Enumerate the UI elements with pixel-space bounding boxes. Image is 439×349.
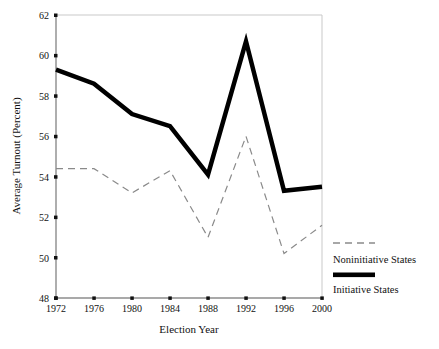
y-axis-title: Average Turnout (Percent): [10, 97, 23, 214]
legend-solid-line-swatch-icon: [333, 273, 375, 278]
line-chart-canvas: 62 60 58 56 54 52 50 48 1972 1976 1980 1…: [0, 0, 439, 349]
x-tick-label: 1976: [84, 303, 104, 314]
x-tick-mark: [244, 296, 248, 300]
plot-frame: [56, 15, 322, 298]
chart-figure: 62 60 58 56 54 52 50 48 1972 1976 1980 1…: [0, 0, 439, 349]
y-tick-label: 60: [39, 50, 49, 61]
x-tick-label: 1984: [160, 303, 180, 314]
y-tick-mark: [54, 54, 58, 58]
x-tick-mark: [206, 296, 210, 300]
y-tick-label: 58: [39, 91, 49, 102]
x-tick-label: 1992: [236, 303, 256, 314]
legend-label-noninitiative-states: Noninitiative States: [333, 254, 416, 265]
series-initiative-states: [56, 41, 322, 191]
y-tick-label: 54: [39, 172, 49, 183]
y-tick-label: 50: [39, 253, 49, 264]
y-tick-label: 62: [39, 10, 49, 21]
x-tick-mark: [320, 296, 324, 300]
initiative-states-line: [56, 41, 322, 191]
x-tick-mark: [168, 296, 172, 300]
x-tick-mark: [282, 296, 286, 300]
x-tick-mark: [130, 296, 134, 300]
x-tick-label: 2000: [312, 303, 332, 314]
x-tick-label: 1980: [122, 303, 142, 314]
x-tick-mark: [54, 296, 58, 300]
y-tick-mark: [54, 94, 58, 98]
y-tick-label: 52: [39, 212, 49, 223]
x-axis-title: Election Year: [159, 323, 219, 335]
y-tick-mark: [54, 175, 58, 179]
y-axis-tick-labels: 62 60 58 56 54 52 50 48: [39, 10, 49, 304]
y-tick-mark: [54, 216, 58, 220]
y-tick-mark: [54, 14, 58, 18]
legend-label-initiative-states: Initiative States: [333, 284, 399, 295]
y-tick-mark: [54, 256, 58, 260]
chart-legend: Noninitiative States Initiative States: [333, 243, 416, 295]
x-tick-label: 1988: [198, 303, 218, 314]
x-tick-label: 1996: [274, 303, 294, 314]
y-tick-label: 56: [39, 131, 49, 142]
x-axis-tick-labels: 1972 1976 1980 1984 1988 1992 1996 2000: [46, 303, 332, 314]
x-tick-label: 1972: [46, 303, 66, 314]
y-tick-mark: [54, 135, 58, 139]
x-tick-mark: [92, 296, 96, 300]
